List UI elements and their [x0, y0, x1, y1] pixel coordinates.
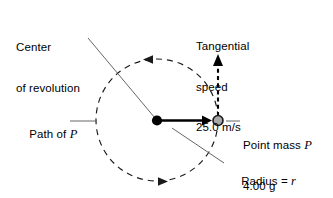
label-radius-prefix: Radius = [241, 175, 291, 187]
label-path-prefix: Path of [29, 128, 69, 140]
rotation-arrowhead-top [143, 55, 153, 64]
label-point-mass-line1: Point mass P [243, 139, 312, 153]
label-path-symbol: P [70, 127, 78, 141]
label-tangential-value: 25.0 m/s [196, 121, 249, 135]
rotation-arrowhead-bottom [158, 177, 168, 186]
label-radius-symbol: r [291, 174, 296, 188]
label-point-mass-symbol: P [304, 138, 312, 152]
label-center-of-revolution: Center of revolution [16, 14, 80, 122]
label-tangential-line2: speed [196, 81, 249, 95]
circular-motion-diagram: Center of revolution Tangential speed 25… [0, 0, 333, 198]
label-tangential-speed: Tangential speed 25.0 m/s [196, 13, 249, 162]
center-of-revolution-dot [152, 115, 162, 125]
label-path-of-p: Path of P [16, 114, 77, 155]
label-center-line1: Center [16, 41, 80, 55]
label-center-line2: of revolution [16, 82, 80, 96]
label-radius: Radius = r [228, 161, 296, 198]
center-leader-line [88, 38, 155, 118]
label-point-mass-prefix: Point mass [243, 139, 304, 151]
label-tangential-line1: Tangential [196, 40, 249, 54]
